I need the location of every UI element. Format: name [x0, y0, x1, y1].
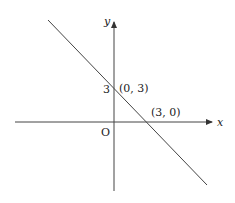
point-label-y-intercept: (0, 3): [119, 82, 149, 95]
y-tick-label: 3: [103, 83, 110, 96]
x-axis-label: x: [217, 116, 224, 129]
point-label-x-intercept: (3, 0): [151, 106, 181, 119]
origin-label: O: [101, 126, 110, 139]
graph-line: [48, 20, 207, 185]
coordinate-diagram: y x O 3 (0, 3) (3, 0): [0, 0, 235, 203]
y-axis-label: y: [103, 15, 111, 28]
